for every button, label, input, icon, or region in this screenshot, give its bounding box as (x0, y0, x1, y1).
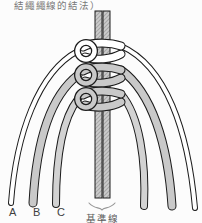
right-cord-arcs (121, 46, 195, 208)
cord-labels: A B C (9, 206, 65, 218)
knot-diagram-figure: 結繩繩線的結法） (0, 0, 202, 223)
figure-caption: 結繩繩線的結法） (14, 0, 100, 11)
cord-label-a: A (9, 206, 17, 218)
knot-diagram-canvas: 結繩繩線的結法） (0, 0, 202, 223)
baseline-label: 基準線 (86, 213, 119, 223)
cord-label-c: C (57, 206, 65, 218)
cord-label-b: B (33, 206, 40, 218)
curly-underbrace-icon (89, 203, 115, 210)
left-cord-arcs (11, 51, 78, 204)
